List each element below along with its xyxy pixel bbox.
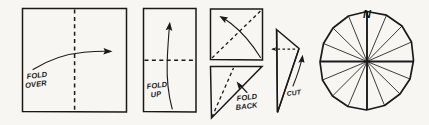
step-2-label-line2: UP	[150, 89, 162, 99]
spoke-ne	[367, 26, 402, 62]
step-3-diagonal-square	[211, 9, 263, 60]
step-2-fold-arrow	[167, 25, 172, 110]
step-4-crease-dashed-line	[212, 68, 234, 117]
step-2-fold-up: FOLD UP	[144, 9, 197, 113]
step-5-wedge-outline	[277, 30, 300, 113]
spoke-ese	[367, 62, 410, 80]
step-6-compass-rose: N	[320, 8, 414, 111]
compass-north-label: N	[363, 8, 372, 20]
fold-diagram-figure: FOLD OVER FOLD UP FOLD BACK CUT	[0, 0, 429, 125]
diagram-canvas: FOLD OVER FOLD UP FOLD BACK CUT	[0, 0, 429, 125]
step-5-label: CUT	[286, 88, 302, 97]
step-1-fold-over: FOLD OVER	[23, 9, 127, 113]
step-1-square-outline	[23, 9, 127, 113]
step-5-wedge-lower-edge	[278, 49, 299, 112]
step-3-crease-dashed-diagonal	[212, 11, 261, 59]
step-3-arrowhead	[219, 16, 228, 23]
step-5-wedge-inner-edge	[277, 30, 278, 112]
spoke-sw	[333, 62, 368, 97]
step-5-cut-line-arrowhead	[271, 47, 276, 51]
spoke-sse	[367, 62, 385, 106]
spoke-se	[367, 62, 400, 95]
step-1-label-line2: OVER	[25, 78, 48, 90]
step-4-label-line2: BACK	[235, 100, 258, 112]
step-1-fold-arrow	[33, 51, 111, 69]
spoke-nw	[333, 28, 367, 62]
step-4-fold-back: FOLD BACK	[211, 67, 263, 119]
step-3-fold-arrow	[222, 17, 261, 57]
step-5-cut: CUT	[271, 30, 304, 113]
